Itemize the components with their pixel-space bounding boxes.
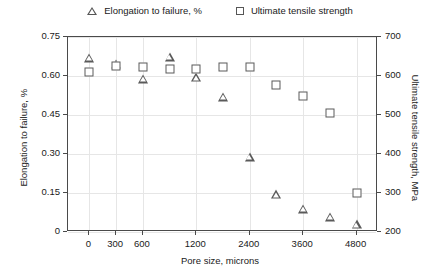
data-point-square bbox=[192, 64, 201, 73]
y-axis-left-tick bbox=[63, 231, 67, 232]
x-axis-tick bbox=[249, 231, 250, 235]
y-axis-left-tick-label: 0.75 bbox=[8, 31, 60, 41]
gridline-horizontal bbox=[68, 76, 376, 77]
y-axis-left-tick bbox=[63, 36, 67, 37]
legend-label-elongation: Elongation to failure, % bbox=[104, 6, 202, 16]
x-axis-tick bbox=[356, 231, 357, 235]
y-axis-right-title: Ultimate tensile strength, MPa bbox=[410, 68, 420, 208]
y-axis-left-tick-label: 0.30 bbox=[8, 148, 60, 158]
x-axis-tick bbox=[195, 231, 196, 235]
x-axis-tick-label: 1200 bbox=[185, 239, 206, 249]
data-point-square bbox=[352, 189, 361, 198]
y-axis-right-tick bbox=[377, 36, 381, 37]
y-axis-right-tick-label: 400 bbox=[385, 148, 401, 158]
y-axis-left-tick bbox=[63, 192, 67, 193]
x-axis-tick-label: 4800 bbox=[345, 239, 366, 249]
y-axis-left-tick bbox=[63, 153, 67, 154]
chart-legend: Elongation to failure, % Ultimate tensil… bbox=[0, 6, 440, 16]
data-point-triangle bbox=[245, 152, 255, 161]
x-axis-tick bbox=[142, 231, 143, 235]
data-point-triangle bbox=[218, 92, 228, 101]
y-axis-left-tick-label: 0.60 bbox=[8, 70, 60, 80]
data-point-square bbox=[245, 63, 254, 72]
x-axis-title: Pore size, microns bbox=[0, 256, 440, 266]
y-axis-left-tick-label: 0 bbox=[8, 226, 60, 236]
y-axis-left-tick bbox=[63, 114, 67, 115]
y-axis-left-title: Elongation to failure, % bbox=[19, 68, 29, 208]
plot-area bbox=[67, 36, 377, 231]
gridline-vertical bbox=[357, 37, 358, 230]
data-point-triangle bbox=[325, 212, 335, 221]
x-axis-tick-label: 2400 bbox=[238, 239, 259, 249]
data-point-square bbox=[85, 68, 94, 77]
data-point-triangle bbox=[138, 74, 148, 83]
y-axis-right-tick bbox=[377, 192, 381, 193]
gridline-horizontal bbox=[68, 193, 376, 194]
y-axis-right-tick-label: 500 bbox=[385, 109, 401, 119]
data-point-square bbox=[165, 64, 174, 73]
x-axis-tick-label: 600 bbox=[134, 239, 150, 249]
data-point-triangle bbox=[84, 53, 94, 62]
data-point-square bbox=[112, 62, 121, 71]
y-axis-right-tick bbox=[377, 114, 381, 115]
legend-item-tensile-strength: Ultimate tensile strength bbox=[236, 6, 353, 16]
data-point-square bbox=[325, 109, 334, 118]
gridline-horizontal bbox=[68, 37, 376, 38]
x-axis-tick-label: 300 bbox=[107, 239, 123, 249]
y-axis-right-tick-label: 600 bbox=[385, 70, 401, 80]
legend-item-elongation: Elongation to failure, % bbox=[87, 6, 202, 16]
x-axis-tick bbox=[88, 231, 89, 235]
gridline-horizontal bbox=[68, 154, 376, 155]
scatter-chart: Elongation to failure, % Ultimate tensil… bbox=[0, 0, 440, 277]
gridline-vertical bbox=[89, 37, 90, 230]
x-axis-tick bbox=[115, 231, 116, 235]
data-point-square bbox=[138, 63, 147, 72]
y-axis-right-tick bbox=[377, 231, 381, 232]
y-axis-right-tick-label: 700 bbox=[385, 31, 401, 41]
square-marker-icon bbox=[236, 7, 244, 15]
data-point-triangle bbox=[352, 220, 362, 229]
data-point-square bbox=[219, 63, 228, 72]
y-axis-left-tick-label: 0.45 bbox=[8, 109, 60, 119]
y-axis-left-tick bbox=[63, 75, 67, 76]
data-point-triangle bbox=[298, 204, 308, 213]
data-point-triangle bbox=[191, 73, 201, 82]
gridline-vertical bbox=[303, 37, 304, 230]
data-point-square bbox=[299, 92, 308, 101]
data-point-square bbox=[272, 80, 281, 89]
x-axis-tick-label: 3600 bbox=[292, 239, 313, 249]
y-axis-right-tick bbox=[377, 153, 381, 154]
data-point-triangle bbox=[165, 52, 175, 61]
y-axis-left-tick-label: 0.15 bbox=[8, 187, 60, 197]
y-axis-right-tick-label: 200 bbox=[385, 226, 401, 236]
data-point-triangle bbox=[271, 190, 281, 199]
y-axis-right-tick-label: 300 bbox=[385, 187, 401, 197]
x-axis-tick-label: 0 bbox=[86, 239, 91, 249]
x-axis-tick bbox=[302, 231, 303, 235]
legend-label-tensile-strength: Ultimate tensile strength bbox=[251, 6, 353, 16]
triangle-marker-icon bbox=[87, 7, 97, 15]
y-axis-right-tick bbox=[377, 75, 381, 76]
